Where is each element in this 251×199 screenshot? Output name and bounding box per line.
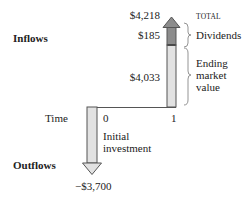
time-label: Time <box>45 112 68 124</box>
up-arrow-head-icon <box>163 17 180 28</box>
dividends-label: Dividends <box>196 29 241 41</box>
total-header: TOTAL <box>196 12 221 21</box>
dividends-brace <box>184 23 191 47</box>
dividends-value: $185 <box>118 29 160 41</box>
inflows-label: Inflows <box>13 32 48 44</box>
ending-value-brace <box>184 48 191 105</box>
dividends-segment <box>167 27 176 45</box>
initial-label-line2: investment <box>103 142 151 154</box>
initial-label-line1: Initial <box>103 130 129 142</box>
ending-market-value-segment <box>167 45 176 107</box>
outflow-value: −$3,700 <box>75 180 111 192</box>
down-arrow-head-icon <box>83 163 102 175</box>
ending-label-line2: market <box>196 69 227 81</box>
time-point-0: 0 <box>103 112 109 124</box>
ending-label-line3: value <box>196 81 220 93</box>
ending-market-value-amount: $4,033 <box>118 71 160 83</box>
ending-label-line1: Ending <box>196 57 228 69</box>
time-point-1: 1 <box>171 112 177 124</box>
outflows-label: Outflows <box>13 159 56 171</box>
initial-investment-segment <box>87 107 97 163</box>
total-value: $4,218 <box>118 9 160 21</box>
